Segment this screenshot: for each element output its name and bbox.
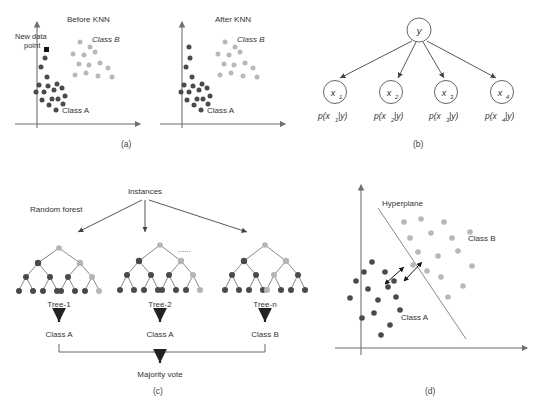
panel-c-id: (c) <box>153 386 163 396</box>
svm-class-b-points <box>401 216 475 300</box>
panel-a-after-knn: After KNN Class B Class A <box>160 15 285 128</box>
formula-x4: p(x 4 |y) <box>484 111 514 123</box>
formula-x1-tail: |y) <box>338 111 347 121</box>
after-knn-title: After KNN <box>215 15 251 24</box>
node-x2-sub: 2 <box>394 94 399 100</box>
hyperplane-label: Hyperplane <box>382 199 423 208</box>
tree-1: Tree-1 Class A <box>16 245 102 339</box>
formula-x1: p(x 1 |y) <box>317 111 347 123</box>
formula-x2: p(x 2 |y) <box>373 111 403 123</box>
tree-2-root-node <box>157 242 163 248</box>
svm-class-a-points <box>347 259 403 338</box>
trees-ellipsis: ...... <box>178 245 191 254</box>
panel-a-before-knn: Before KNN New data point Class B <box>15 15 140 128</box>
formula-x4-head: p(x <box>484 111 498 121</box>
tree-1-vote: Class A <box>45 330 73 339</box>
before-knn-class-b-points <box>71 40 115 80</box>
instances-label: Instances <box>128 187 162 196</box>
majority-vote-bracket <box>59 344 265 363</box>
panel-b-naive-bayes: y x 1 x 2 x 3 x 4 <box>317 18 514 123</box>
before-knn-class-b-label: Class B <box>92 35 120 44</box>
new-data-point-marker <box>44 47 49 52</box>
tree-2: Tree-2 Class A <box>117 242 203 339</box>
panel-c-random-forest: Instances Random forest ...... <box>16 187 308 379</box>
formula-x3: p(x 3 |y) <box>428 111 458 123</box>
naive-bayes-formulas: p(x 1 |y) p(x 2 |y) p(x 3 |y) p(x 4 |y) <box>317 111 514 123</box>
tree-n-name: Tree-n <box>253 300 276 309</box>
after-knn-class-b-label: Class B <box>237 35 265 44</box>
tree-2-name: Tree-2 <box>148 300 172 309</box>
after-knn-class-b-points <box>216 40 260 80</box>
before-knn-title: Before KNN <box>67 15 110 24</box>
formula-x2-tail: |y) <box>394 111 403 121</box>
after-knn-class-a-points <box>179 45 213 113</box>
node-x3: x 3 <box>435 81 458 104</box>
instances-arrows <box>78 200 247 232</box>
tree-n-vote: Class B <box>251 330 279 339</box>
majority-vote-label: Majority vote <box>137 370 183 379</box>
svm-class-a-label: Class A <box>401 313 429 322</box>
formula-x3-tail: |y) <box>449 111 458 121</box>
panel-b-id: (b) <box>413 139 424 149</box>
node-x2: x 2 <box>380 81 403 104</box>
new-data-point-label-line2: point <box>24 41 41 50</box>
panel-d-id: (d) <box>425 386 436 396</box>
svm-class-b-label: Class B <box>468 234 496 243</box>
node-x1: x 1 <box>324 81 347 104</box>
tree-n: Tree-n Class B <box>222 242 308 339</box>
before-knn-class-a-points <box>34 56 68 113</box>
panel-d-svm: Hyperplane Class B <box>335 185 527 355</box>
tree-2-vote: Class A <box>146 330 174 339</box>
node-x1-label: x <box>330 88 336 98</box>
tree-1-name: Tree-1 <box>47 300 71 309</box>
node-x1-sub: 1 <box>339 94 342 100</box>
random-forest-label: Random forest <box>30 205 83 214</box>
node-x4-label: x <box>497 88 503 98</box>
new-data-point-label-line1: New data <box>15 32 48 41</box>
formula-x4-tail: |y) <box>505 111 514 121</box>
tree-1-root-node <box>56 245 62 251</box>
after-knn-class-a-label: Class A <box>207 106 235 115</box>
node-x3-label: x <box>441 88 447 98</box>
naive-bayes-edges <box>340 41 496 78</box>
figure-root: Before KNN New data point Class B <box>0 0 537 408</box>
node-x4: x 4 <box>491 81 514 104</box>
tree-n-root-node <box>262 242 268 248</box>
formula-x1-head: p(x <box>317 111 331 121</box>
before-knn-class-a-label: Class A <box>62 106 90 115</box>
formula-x3-head: p(x <box>428 111 442 121</box>
panel-a-id: (a) <box>121 139 132 149</box>
formula-x2-head: p(x <box>373 111 387 121</box>
node-x2-label: x <box>386 88 392 98</box>
